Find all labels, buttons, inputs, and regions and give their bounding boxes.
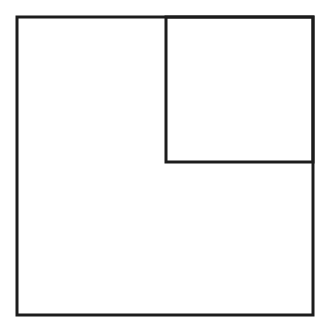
nested-squares-diagram xyxy=(0,0,330,333)
inner-square xyxy=(166,17,313,162)
diagram-canvas xyxy=(0,0,330,333)
